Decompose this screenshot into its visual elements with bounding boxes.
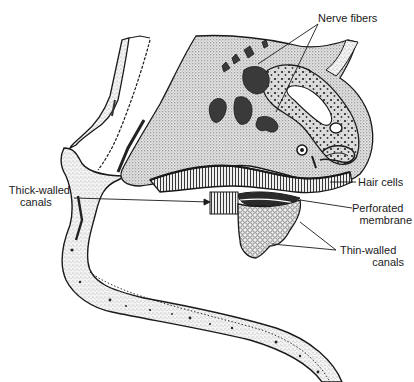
label-thick-walled-line2: canals — [4, 196, 70, 208]
label-thin-walled-line1: Thin-walled — [340, 244, 404, 256]
label-perforated-line1: Perforated — [352, 202, 412, 214]
label-nerve-fibers: Nerve fibers — [318, 12, 377, 24]
label-perforated-membrane: Perforated membrane — [352, 202, 412, 226]
label-hair-cells: Hair cells — [358, 176, 403, 188]
thick-walled-canals-region — [210, 192, 238, 214]
label-thin-walled-line2: canals — [340, 256, 404, 268]
label-thin-walled-canals: Thin-walled canals — [340, 244, 404, 268]
label-thick-walled-canals: Thick-walled canals — [4, 184, 70, 208]
thin-walled-canals-region — [238, 200, 300, 258]
label-thick-walled-line1: Thick-walled — [4, 184, 70, 196]
diagram-stage: Nerve fibers Hair cells Thick-walled can… — [0, 0, 414, 382]
label-perforated-line2: membrane — [352, 214, 412, 226]
